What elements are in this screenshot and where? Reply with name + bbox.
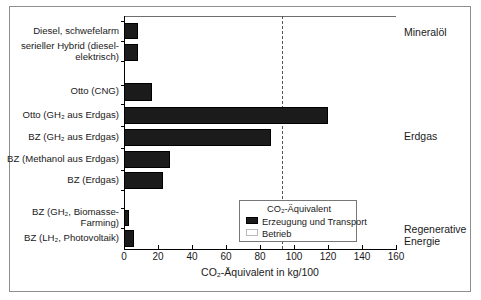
- category-label-bz-methanol-erdgas: BZ (Methanol aus Erdgas): [7, 154, 119, 165]
- legend-swatch-production-icon: [246, 217, 258, 224]
- x-tick-80: [260, 245, 261, 250]
- x-tick-40: [192, 245, 193, 250]
- legend-entry-production[interactable]: Erzeugung und Transport: [246, 217, 367, 227]
- y-tick-9: [121, 208, 125, 209]
- legend-entry-operation-label: Betrieb: [262, 229, 291, 239]
- x-tick-20: [158, 245, 159, 250]
- x-tick-140: [362, 245, 363, 250]
- category-label-bz-gh2-erdgas: BZ (GH₂ aus Erdgas): [28, 132, 119, 143]
- bar-otto-cng[interactable]: [124, 83, 152, 101]
- y-tick-7: [121, 170, 125, 171]
- bar-otto-gh2-erdgas[interactable]: [124, 107, 328, 124]
- y-tick-8: [121, 190, 125, 191]
- x-tick-160: [396, 245, 397, 250]
- category-label-diesel-schwefelarm: Diesel, schwefelarm: [33, 26, 119, 37]
- x-tick-120: [328, 245, 329, 250]
- group-label-erdgas: Erdgas: [404, 131, 437, 143]
- plot-area: 0 20 40 60 80 100 120 140 160 Diesel, sc…: [0, 0, 481, 300]
- category-label-otto-cng: Otto (CNG): [70, 86, 119, 97]
- legend: CO₂-Äquivalent Erzeugung und Transport B…: [239, 200, 357, 242]
- x-tick-60: [226, 245, 227, 250]
- bar-bz-methanol-erdgas[interactable]: [124, 151, 170, 168]
- category-label-bz-gh2-biomasse-farming: BZ (GH₂, Biomasse- Farming): [32, 207, 119, 228]
- bar-bz-erdgas[interactable]: [124, 172, 163, 189]
- x-tick-label-160: 160: [376, 251, 416, 263]
- group-label-regenerative-energie: Regenerative Energie: [404, 224, 466, 247]
- legend-swatch-operation-icon: [246, 229, 258, 236]
- legend-title: CO₂-Äquivalent: [240, 204, 358, 214]
- x-tick-100: [294, 245, 295, 250]
- plot-top-border: [124, 16, 396, 17]
- x-axis-title: CO₂-Äquivalent in kg/100: [124, 266, 396, 278]
- bar-bz-gh2-erdgas[interactable]: [124, 129, 271, 146]
- legend-entry-operation[interactable]: Betrieb: [246, 229, 291, 239]
- figure: 0 20 40 60 80 100 120 140 160 Diesel, sc…: [0, 0, 481, 300]
- y-tick-5: [121, 126, 125, 127]
- category-label-serieller-hybrid: serieller Hybrid (diesel- elektrisch): [21, 41, 119, 62]
- bar-bz-lh2-photovoltaik[interactable]: [124, 230, 134, 247]
- y-tick-4: [121, 104, 125, 105]
- bar-diesel-schwefelarm[interactable]: [124, 23, 138, 39]
- y-tick-0: [121, 21, 125, 22]
- category-label-bz-erdgas: BZ (Erdgas): [67, 175, 119, 186]
- bar-serieller-hybrid[interactable]: [124, 44, 138, 61]
- y-tick-2: [121, 61, 125, 62]
- group-label-mineraloel: Mineralöl: [404, 27, 447, 39]
- bar-bz-gh2-biomasse-farming[interactable]: [124, 210, 129, 226]
- y-tick-1: [121, 41, 125, 42]
- y-tick-6: [121, 148, 125, 149]
- legend-entry-production-label: Erzeugung und Transport: [262, 217, 367, 227]
- category-label-otto-gh2-erdgas: Otto (GH₂ aus Erdgas): [23, 110, 120, 121]
- category-label-bz-lh2-photovoltaik: BZ (LH₂, Photovoltaik): [24, 233, 119, 244]
- y-tick-10: [121, 228, 125, 229]
